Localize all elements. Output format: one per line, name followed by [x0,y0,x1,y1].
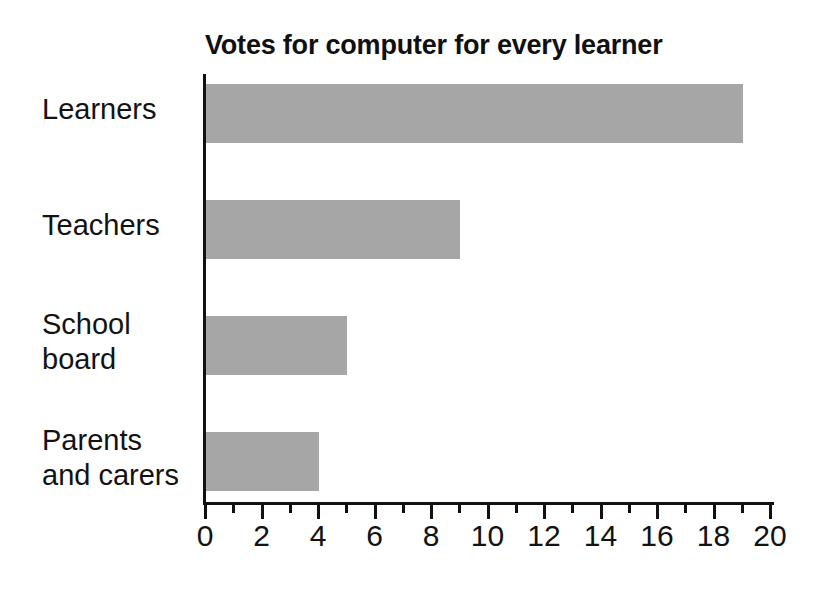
x-tick-label: 0 [175,519,235,553]
x-tick-minor [515,504,518,513]
x-tick-minor [232,504,235,513]
x-tick-minor [289,504,292,513]
x-tick-major [204,504,207,519]
x-tick-label: 20 [740,519,800,553]
x-tick-major [317,504,320,519]
plot-area: LearnersTeachersSchool boardParents and … [0,0,819,595]
x-tick-label: 12 [514,519,574,553]
x-tick-major [600,504,603,519]
x-tick-minor [345,504,348,513]
x-tick-major [430,504,433,519]
category-label: Teachers [42,208,200,243]
x-tick-major [487,504,490,519]
x-tick-major [261,504,264,519]
x-tick-minor [628,504,631,513]
x-tick-minor [402,504,405,513]
x-tick-label: 8 [401,519,461,553]
x-tick-major [543,504,546,519]
x-tick-minor [458,504,461,513]
x-tick-major [374,504,377,519]
category-label: Learners [42,92,200,127]
x-tick-minor [571,504,574,513]
x-tick-label: 2 [232,519,292,553]
x-tick-major [713,504,716,519]
x-tick-major [769,504,772,519]
bar [206,200,460,259]
x-tick-minor [684,504,687,513]
bar [206,432,319,491]
bar [206,316,347,375]
bar [206,84,743,143]
x-tick-label: 4 [288,519,348,553]
x-tick-label: 14 [571,519,631,553]
x-tick-label: 6 [345,519,405,553]
x-tick-major [656,504,659,519]
x-tick-label: 10 [458,519,518,553]
x-tick-minor [741,504,744,513]
x-tick-label: 16 [627,519,687,553]
x-tick-label: 18 [684,519,744,553]
bar-chart: Votes for computer for every learner Lea… [0,0,819,595]
category-label: Parents and carers [42,423,200,493]
category-label: School board [42,307,200,377]
